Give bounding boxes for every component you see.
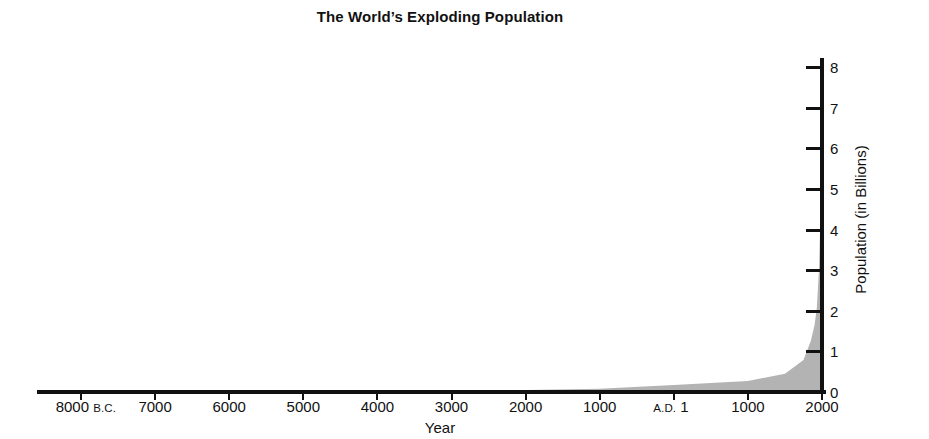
x-tick-label-2: 6000 [213, 398, 246, 415]
chart-title: The World’s Exploding Population [0, 8, 880, 25]
y-tick-4 [806, 229, 820, 232]
y-tick-label-4: 4 [830, 221, 838, 238]
plot-area [37, 60, 822, 394]
x-tick-label-number: 6000 [213, 398, 246, 415]
y-tick-8 [806, 66, 820, 69]
x-tick-label-8: A.D. 1 [653, 398, 688, 415]
y-tick-5 [806, 188, 820, 191]
y-tick-label-5: 5 [830, 181, 838, 198]
x-tick-label-number: 1000 [583, 398, 616, 415]
y-tick-label-3: 3 [830, 262, 838, 279]
x-tick-label-number: 3000 [435, 398, 468, 415]
x-tick-label-5: 3000 [435, 398, 468, 415]
x-tick-label-number: 5000 [287, 398, 320, 415]
x-tick-label-number: 1000 [731, 398, 764, 415]
x-tick-label-4: 4000 [361, 398, 394, 415]
y-axis-title-text: Population (in Billions) [852, 145, 869, 293]
x-tick-label-number: 2000 [805, 398, 838, 415]
y-tick-6 [806, 147, 820, 150]
x-axis-title: Year [0, 419, 880, 436]
y-tick-label-0: 0 [830, 384, 838, 401]
x-tick-label-3: 5000 [287, 398, 320, 415]
area-fill-polygon [81, 144, 822, 392]
x-tick-label-number: 4000 [361, 398, 394, 415]
y-tick-label-2: 2 [830, 302, 838, 319]
x-tick-label-6: 2000 [509, 398, 542, 415]
x-tick-label-era: A.D. [653, 402, 676, 414]
y-tick-1 [806, 350, 820, 353]
x-tick-label-9: 1000 [731, 398, 764, 415]
x-tick-label-7: 1000 [583, 398, 616, 415]
y-tick-7 [806, 107, 820, 110]
chart-figure: The World’s Exploding Population 8000 B.… [0, 0, 929, 439]
x-tick-label-number: 1 [680, 398, 688, 415]
x-tick-label-10: 2000 [805, 398, 838, 415]
y-tick-label-1: 1 [830, 343, 838, 360]
x-tick-label-number: 7000 [138, 398, 171, 415]
x-tick-label-1: 7000 [138, 398, 171, 415]
population-area-series [37, 60, 822, 394]
x-tick-label-number: 8000 [56, 398, 89, 415]
x-tick-label-0: 8000 B.C. [56, 398, 116, 415]
y-tick-label-7: 7 [830, 99, 838, 116]
y-axis-line [820, 58, 824, 394]
x-tick-label-number: 2000 [509, 398, 542, 415]
y-tick-label-6: 6 [830, 140, 838, 157]
y-tick-3 [806, 269, 820, 272]
y-tick-2 [806, 310, 820, 313]
y-axis-title: Population (in Billions) [847, 0, 873, 439]
x-tick-label-era: B.C. [93, 402, 116, 414]
y-tick-label-8: 8 [830, 59, 838, 76]
